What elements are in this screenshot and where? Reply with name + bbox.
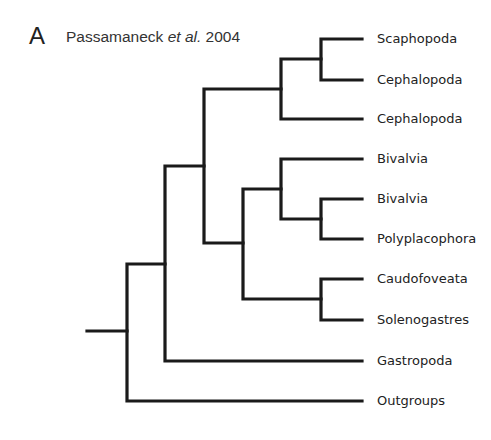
branch-biv-poly: [321, 199, 362, 239]
leaf-label-outgroups: Outgroups: [377, 393, 445, 408]
branch-node-165: [165, 166, 362, 361]
leaf-label-cephalopoda-2: Cephalopoda: [377, 111, 463, 126]
leaf-label-cephalopoda-1: Cephalopoda: [377, 72, 463, 87]
leaf-label-bivalvia-2: Bivalvia: [377, 191, 428, 206]
phylogenetic-tree: [0, 0, 491, 440]
leaf-label-gastropoda: Gastropoda: [377, 353, 452, 368]
leaf-label-caudofoveata: Caudofoveata: [377, 271, 468, 286]
branch-scaph-ceph: [321, 39, 362, 80]
leaf-label-solenogastres: Solenogastres: [377, 312, 469, 327]
branch-aplacophora: [321, 279, 362, 320]
leaf-label-bivalvia-1: Bivalvia: [377, 151, 428, 166]
leaf-label-scaphopoda: Scaphopoda: [377, 31, 457, 46]
leaf-label-polyplacophora: Polyplacophora: [377, 231, 476, 246]
